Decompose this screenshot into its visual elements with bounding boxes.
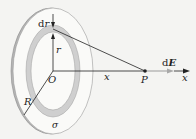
charged-disk-diagram: dr r O x P dE x R σ [0,0,196,139]
label-x-distance: x [104,71,110,82]
label-x-axis: x [182,72,188,83]
label-sigma: σ [52,120,59,130]
label-O: O [48,74,56,85]
dE-arrow-head [167,69,174,74]
diagram-svg: dr r O x P dE x R σ [0,0,196,139]
label-dE: dE [162,57,176,68]
label-dr: dr [38,18,50,29]
label-P: P [140,74,148,85]
label-R: R [23,96,32,107]
point-P [143,69,147,73]
